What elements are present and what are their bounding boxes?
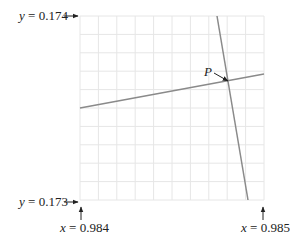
grid [80,16,264,200]
arrow-point-p-icon [214,73,228,81]
diagram-canvas [0,0,290,248]
label-y-top-eq: = [25,8,39,23]
label-y-bottom: y = 0.173 [19,194,68,210]
label-x-right-value: 0.985 [261,220,290,235]
label-x-left: x = 0.984 [60,220,109,236]
label-x-right: x = 0.985 [241,220,290,236]
label-y-bottom-value: 0.173 [39,194,68,209]
label-x-right-eq: = [247,220,261,235]
label-y-top-value: 0.174 [39,8,68,23]
label-y-bottom-eq: = [25,194,39,209]
label-point-p: P [204,64,212,80]
label-y-top: y = 0.174 [19,8,68,24]
label-x-left-value: 0.984 [80,220,109,235]
label-x-left-eq: = [66,220,80,235]
label-point-p-text: P [204,64,212,79]
